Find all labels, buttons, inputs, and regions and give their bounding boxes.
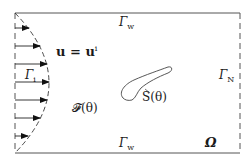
domain-label: Ω xyxy=(204,135,217,150)
outlet-boundary-label: ΓN xyxy=(218,68,234,84)
velocity-arrows xyxy=(15,28,49,136)
obstacle-label: S(θ) xyxy=(142,90,167,104)
top-wall-label: Γw xyxy=(118,15,134,31)
inlet-boundary-label: Γi xyxy=(24,68,36,84)
velocity-profile-curve xyxy=(15,13,49,153)
inlet-velocity-label: u = ui xyxy=(56,44,98,59)
flow-domain-diagram: u = ui Γi Γw Γw ΓN 𝓕(θ) S(θ) Ω xyxy=(0,0,250,164)
fluid-region-label: 𝓕(θ) xyxy=(72,101,98,115)
bottom-wall-label: Γw xyxy=(118,136,134,152)
